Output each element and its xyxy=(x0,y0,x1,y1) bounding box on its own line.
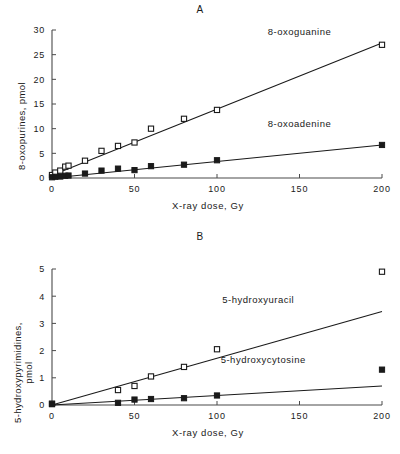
data-point-8-oxoadenine xyxy=(115,166,120,171)
data-point-8-oxoadenine xyxy=(82,171,87,176)
series-label-8-oxoadenine: 8-oxoadenine xyxy=(268,118,332,129)
x-tick-label: 100 xyxy=(208,184,225,194)
panel-b: B 0123450501001502005-hydroxyuracil5-hyd… xyxy=(0,227,400,454)
data-point-5-hydroxycytosine xyxy=(214,393,219,398)
x-tick-label: 0 xyxy=(49,184,55,194)
data-point-8-oxoguanine xyxy=(115,143,120,148)
data-point-5-hydroxyuracil xyxy=(148,374,153,379)
data-point-5-hydroxyuracil xyxy=(214,347,219,352)
panel-b-y-axis-label-line1: 5-hydroxypyrimidines, xyxy=(12,322,23,423)
data-point-8-oxoadenine xyxy=(53,174,58,179)
x-tick-label: 200 xyxy=(373,411,390,421)
data-point-5-hydroxycytosine xyxy=(132,397,137,402)
y-tick-label: 0 xyxy=(39,400,45,410)
data-point-8-oxoadenine xyxy=(99,168,104,173)
y-tick-label: 10 xyxy=(33,124,45,134)
data-point-5-hydroxyuracil xyxy=(132,383,137,388)
data-point-5-hydroxycytosine xyxy=(148,396,153,401)
panel-b-y-axis-label: 5-hydroxypyrimidines, pmol xyxy=(13,322,34,423)
data-point-8-oxoadenine xyxy=(132,168,137,173)
figure-container: A 0510152025300501001502008-oxoguanine8-… xyxy=(0,0,400,454)
y-tick-label: 4 xyxy=(39,292,45,302)
data-point-8-oxoadenine xyxy=(58,174,63,179)
y-tick-label: 5 xyxy=(39,264,45,274)
data-point-5-hydroxyuracil xyxy=(115,387,120,392)
x-tick-label: 50 xyxy=(129,411,141,421)
data-point-5-hydroxyuracil xyxy=(181,364,186,369)
data-point-8-oxoguanine xyxy=(148,126,153,131)
series-label-5-hydroxycytosine: 5-hydroxycytosine xyxy=(221,354,306,365)
y-tick-label: 5 xyxy=(39,149,45,159)
data-point-5-hydroxycytosine xyxy=(49,402,54,407)
series-label-8-oxoguanine: 8-oxoguanine xyxy=(268,26,332,37)
x-tick-label: 0 xyxy=(49,411,55,421)
data-point-8-oxoguanine xyxy=(132,140,137,145)
data-point-8-oxoguanine xyxy=(82,158,87,163)
y-tick-label: 2 xyxy=(39,346,45,356)
y-tick-label: 30 xyxy=(33,25,45,35)
data-point-8-oxoadenine xyxy=(148,164,153,169)
panel-b-y-axis-label-line2: pmol xyxy=(24,322,35,423)
data-point-5-hydroxycytosine xyxy=(379,367,384,372)
panel-a-x-axis-label: X-ray dose, Gy xyxy=(8,200,400,211)
panel-a: A 0510152025300501001502008-oxoguanine8-… xyxy=(0,0,400,227)
data-point-8-oxoadenine xyxy=(214,158,219,163)
y-tick-label: 0 xyxy=(39,173,45,183)
data-point-8-oxoguanine xyxy=(379,42,384,47)
x-tick-label: 150 xyxy=(291,411,308,421)
data-point-5-hydroxycytosine xyxy=(181,396,186,401)
data-point-8-oxoguanine xyxy=(66,163,71,168)
data-point-5-hydroxyuracil xyxy=(379,269,384,274)
y-tick-label: 25 xyxy=(33,50,45,60)
fit-line-5-hydroxyuracil xyxy=(52,311,382,405)
x-tick-label: 50 xyxy=(129,184,141,194)
panel-b-x-axis-label: X-ray dose, Gy xyxy=(8,427,400,438)
data-point-5-hydroxycytosine xyxy=(115,400,120,405)
series-label-5-hydroxyuracil: 5-hydroxyuracil xyxy=(222,294,294,305)
y-tick-label: 3 xyxy=(39,319,45,329)
y-tick-label: 15 xyxy=(33,99,45,109)
y-tick-label: 1 xyxy=(39,373,45,383)
x-tick-label: 100 xyxy=(208,411,225,421)
data-point-8-oxoadenine xyxy=(66,173,71,178)
data-point-8-oxoguanine xyxy=(181,116,186,121)
data-point-8-oxoadenine xyxy=(379,142,384,147)
x-tick-label: 150 xyxy=(291,184,308,194)
x-tick-label: 200 xyxy=(373,184,390,194)
data-point-8-oxoguanine xyxy=(99,148,104,153)
data-point-8-oxoadenine xyxy=(181,162,186,167)
data-point-8-oxoguanine xyxy=(214,107,219,112)
y-tick-label: 20 xyxy=(33,75,45,85)
panel-b-plot: 0123450501001502005-hydroxyuracil5-hydro… xyxy=(0,227,400,454)
panel-a-y-axis-label: 8-oxopurines, pmol xyxy=(16,82,27,170)
panel-a-plot: 0510152025300501001502008-oxoguanine8-ox… xyxy=(0,0,400,227)
